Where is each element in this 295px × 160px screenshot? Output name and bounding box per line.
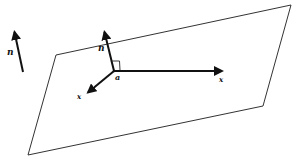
label-x-right: x [218,75,224,84]
label-n-plane: n [98,43,105,53]
label-n-free: n [7,47,14,57]
normal-vector-plane [105,32,115,71]
label-x-left: x [76,92,82,101]
plane-parallelogram [28,5,291,155]
plane-normal-diagram: n n x x a [0,0,295,160]
label-a: a [115,72,120,82]
normal-vector-free [15,32,24,72]
x-axis-down-left [88,71,114,93]
